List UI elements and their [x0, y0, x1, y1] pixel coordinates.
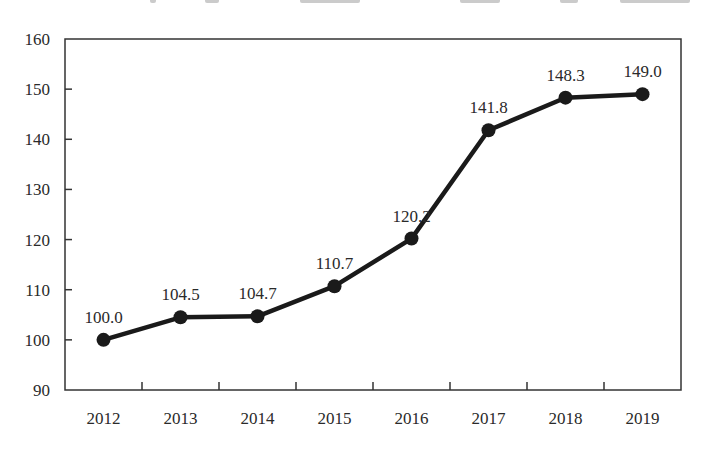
data-point-label: 120.2 [392, 207, 430, 226]
x-tick-label: 2013 [164, 409, 198, 428]
data-point-marker [559, 91, 573, 105]
line-chart: 90100110120130140150160 2012201320142015… [0, 0, 703, 450]
data-point-label: 141.8 [469, 98, 507, 117]
data-point-marker [328, 279, 342, 293]
y-tick-label: 160 [25, 30, 51, 49]
x-axis-tick-labels: 20122013201420152016201720182019 [87, 409, 660, 428]
x-tick-label: 2014 [241, 409, 276, 428]
y-tick-label: 130 [25, 180, 51, 199]
data-point-marker [405, 232, 419, 246]
data-point-label: 104.7 [238, 284, 277, 303]
y-tick-label: 100 [25, 331, 51, 350]
data-point-marker [636, 87, 650, 101]
data-point-label: 148.3 [546, 66, 584, 85]
y-tick-label: 150 [25, 80, 51, 99]
data-point-marker [482, 123, 496, 137]
x-tick-label: 2016 [395, 409, 429, 428]
x-tick-label: 2012 [87, 409, 121, 428]
plot-frame [65, 39, 681, 390]
data-point-label: 149.0 [623, 62, 661, 81]
y-tick-label: 110 [25, 281, 50, 300]
series-markers [97, 87, 650, 347]
data-point-label: 110.7 [316, 254, 354, 273]
x-tick-label: 2017 [472, 409, 507, 428]
data-point-marker [174, 310, 188, 324]
data-point-marker [97, 333, 111, 347]
axis-ticks [65, 89, 604, 390]
x-tick-label: 2018 [549, 409, 583, 428]
y-tick-label: 90 [33, 381, 50, 400]
y-tick-label: 140 [25, 130, 51, 149]
data-labels: 100.0104.5104.7110.7120.2141.8148.3149.0 [84, 62, 661, 327]
y-tick-label: 120 [25, 231, 51, 250]
data-point-marker [251, 309, 265, 323]
x-tick-label: 2019 [626, 409, 660, 428]
data-point-label: 104.5 [161, 285, 199, 304]
y-axis-tick-labels: 90100110120130140150160 [25, 30, 51, 400]
x-tick-label: 2015 [318, 409, 352, 428]
data-point-label: 100.0 [84, 308, 122, 327]
